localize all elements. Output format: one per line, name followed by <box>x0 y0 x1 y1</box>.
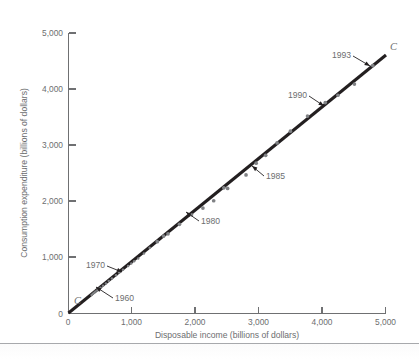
data-point <box>222 186 226 190</box>
x-tick-label-2000: 2,000 <box>185 317 206 327</box>
x-tick-label-0: 0 <box>66 317 71 327</box>
data-point <box>201 206 205 210</box>
annotation-label-1960: 1960 <box>115 293 134 303</box>
data-point <box>254 161 258 165</box>
data-point <box>166 232 170 236</box>
data-point <box>111 277 114 280</box>
data-point <box>137 257 140 260</box>
consumption-function-scatter-chart: 5,000 4,000 3,000 2,000 1,000 0 Consumpt… <box>0 0 419 359</box>
annotation-label-1990: 1990 <box>288 90 307 100</box>
data-point <box>289 129 293 133</box>
data-point <box>105 282 108 285</box>
curve-label-origin: C <box>74 295 82 306</box>
x-tick-label-5000: 5,000 <box>375 317 396 327</box>
x-tick-label-3000: 3,000 <box>248 317 269 327</box>
data-point <box>353 82 357 86</box>
x-tick-label-1000: 1,000 <box>121 317 142 327</box>
y-tick-label-2000: 2,000 <box>42 196 63 206</box>
y-tick-label-4000: 4,000 <box>42 84 63 94</box>
data-point <box>323 101 327 105</box>
data-point <box>212 199 216 203</box>
data-point <box>130 262 133 265</box>
data-point <box>162 234 166 238</box>
data-point <box>115 274 118 277</box>
curve-label-end: C <box>390 41 398 52</box>
footer-band <box>0 344 419 359</box>
y-axis-title: Consumption expenditure (billions of dol… <box>19 88 29 258</box>
data-point <box>155 240 159 244</box>
data-point <box>178 222 182 226</box>
data-point <box>108 280 111 283</box>
data-point <box>133 260 136 263</box>
data-point <box>244 173 248 177</box>
x-axis-title: Disposable income (billions of dollars) <box>155 330 299 340</box>
data-point <box>122 268 125 271</box>
y-tick-label-3000: 3,000 <box>42 140 63 150</box>
data-point <box>127 265 130 268</box>
data-point <box>226 187 230 191</box>
annotation-label-1970: 1970 <box>86 260 105 270</box>
annotation-label-1980: 1980 <box>201 216 220 226</box>
data-point <box>102 284 105 287</box>
x-tick-label-4000: 4,000 <box>312 317 333 327</box>
data-point <box>275 141 279 145</box>
data-point <box>264 153 268 157</box>
data-point <box>148 247 151 250</box>
figure-container: 5,000 4,000 3,000 2,000 1,000 0 Consumpt… <box>0 0 419 359</box>
data-point <box>306 114 310 118</box>
y-tick-label-1000: 1,000 <box>42 252 63 262</box>
y-tick-label-0: 0 <box>58 309 63 319</box>
y-tick-label-5000: 5,000 <box>42 28 63 38</box>
annotation-label-1985: 1985 <box>266 171 285 181</box>
annotation-label-1993: 1993 <box>332 50 351 60</box>
data-point <box>336 93 340 97</box>
footer-divider-rule <box>0 343 419 344</box>
data-point <box>371 64 375 68</box>
plot-background <box>0 0 419 340</box>
data-point <box>143 252 146 255</box>
